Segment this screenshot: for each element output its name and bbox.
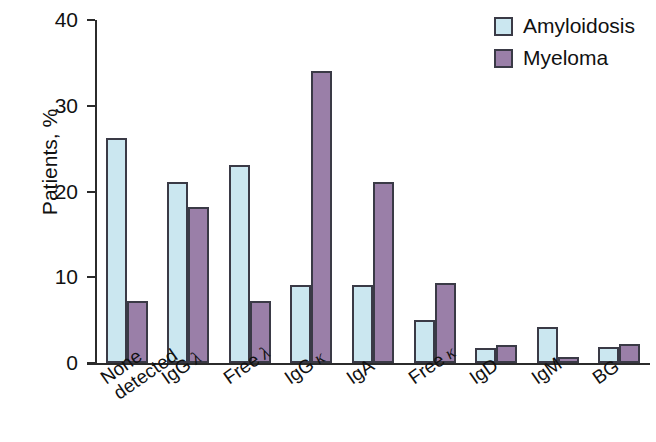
chart-legend: Amyloidosis Myeloma [494,12,635,76]
bar-myeloma-7 [558,357,579,363]
bar-myeloma-3 [311,71,332,363]
legend-label-amyloidosis: Amyloidosis [523,14,635,38]
y-tick-mark [87,105,95,107]
y-axis-line [95,20,97,363]
legend-label-myeloma: Myeloma [523,46,608,70]
y-tick-label: 40 [38,9,78,30]
y-tick-mark [87,19,95,21]
y-axis-title: Patients, % [38,62,62,262]
legend-swatch-icon-myeloma [494,49,513,68]
bar-myeloma-1 [188,207,209,363]
bar-myeloma-4 [373,182,394,363]
legend-swatch-icon-amyloidosis [494,17,513,36]
bar-myeloma-8 [619,344,640,363]
y-tick-mark [87,362,95,364]
y-tick-label: 30 [38,95,78,116]
bar-amyloidosis-1 [167,182,188,363]
y-tick-mark [87,191,95,193]
y-tick-mark [87,276,95,278]
y-tick-label: 0 [38,352,78,373]
x-axis-label-3: IgG κ [281,347,328,388]
legend-item-myeloma: Myeloma [494,44,635,72]
bar-amyloidosis-0 [106,138,127,363]
bar-chart-figure: Patients, % 010203040 NonedetectedIgG λF… [0,0,656,442]
legend-item-amyloidosis: Amyloidosis [494,12,635,40]
bar-amyloidosis-2 [229,165,250,363]
y-tick-label: 10 [38,266,78,287]
bar-amyloidosis-4 [352,285,373,363]
y-tick-label: 20 [38,181,78,202]
bar-myeloma-6 [496,345,517,363]
